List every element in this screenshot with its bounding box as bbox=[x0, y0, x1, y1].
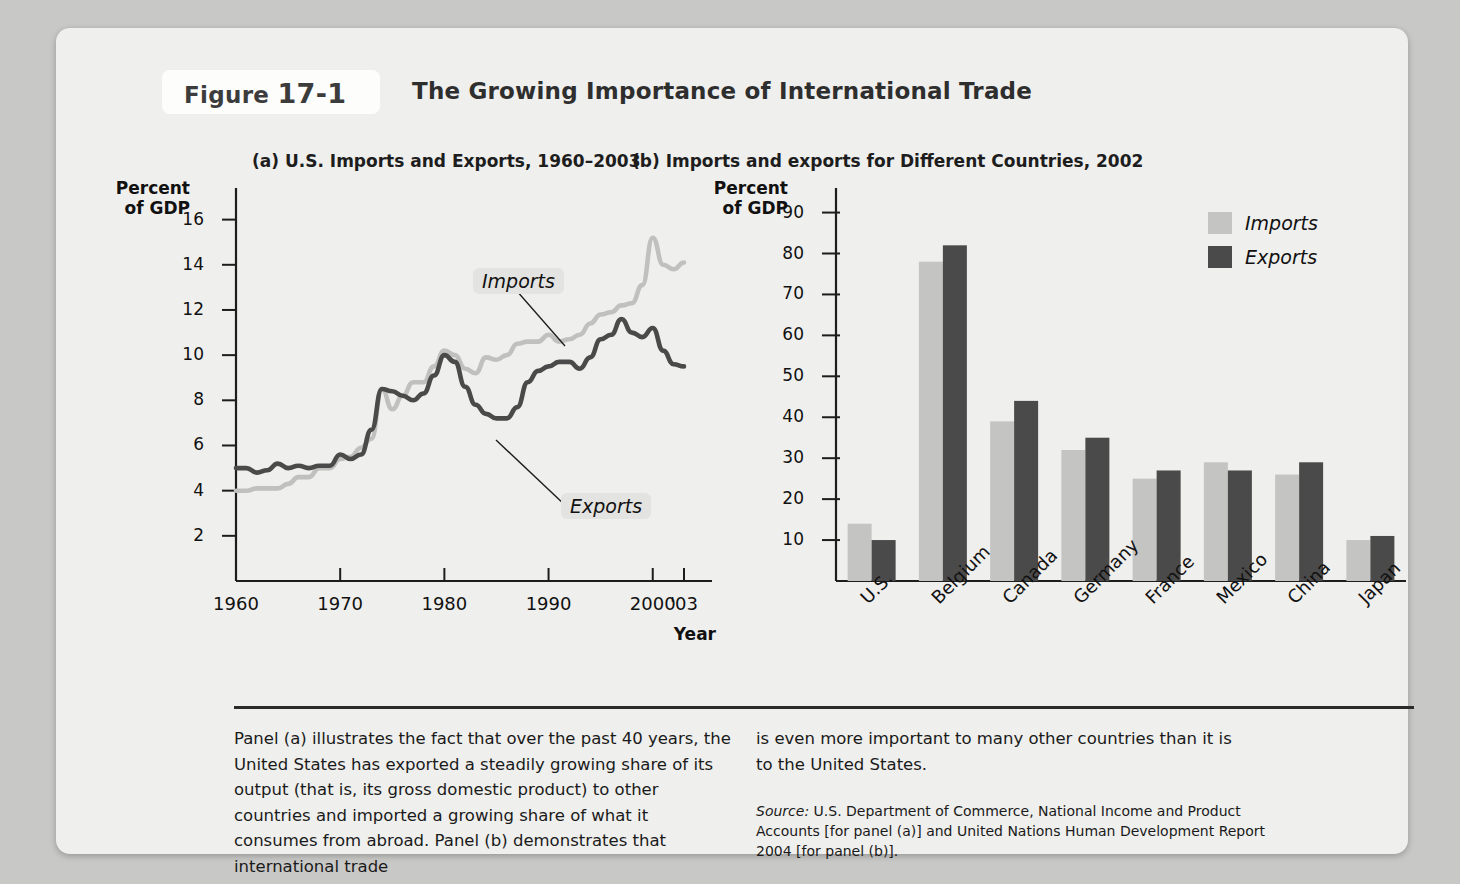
source-text: U.S. Department of Commerce, National In… bbox=[756, 803, 1265, 859]
y-tick-label: 60 bbox=[740, 324, 804, 344]
bar-imports bbox=[1133, 479, 1157, 581]
caption-left-text: Panel (a) illustrates the fact that over… bbox=[234, 726, 734, 879]
figure-tag-number: 17-1 bbox=[278, 78, 347, 109]
y-tick-label: 30 bbox=[740, 447, 804, 467]
y-tick-label: 40 bbox=[740, 406, 804, 426]
exports-line bbox=[236, 319, 684, 473]
panel-a-title: (a) U.S. Imports and Exports, 1960–2003 bbox=[252, 151, 640, 171]
caption-left-column: Panel (a) illustrates the fact that over… bbox=[234, 726, 734, 879]
y-tick-label: 80 bbox=[740, 243, 804, 263]
y-tick-label: 16 bbox=[144, 209, 204, 229]
panel-b-chart bbox=[796, 188, 1416, 588]
bar-exports bbox=[943, 245, 967, 581]
callout-exports: Exports bbox=[561, 493, 651, 519]
y-tick-label: 2 bbox=[144, 525, 204, 545]
imports-line bbox=[236, 238, 684, 491]
x-tick-label: 1970 bbox=[300, 593, 380, 614]
y-tick-label: 12 bbox=[144, 299, 204, 319]
bar-imports bbox=[1346, 540, 1370, 581]
panel-b-svg bbox=[796, 188, 1416, 588]
y-tick-label: 6 bbox=[144, 434, 204, 454]
figure-tag: Figure 17-1 bbox=[184, 78, 346, 109]
y-tick-label: 50 bbox=[740, 365, 804, 385]
y-tick-label: 10 bbox=[740, 529, 804, 549]
callout-imports: Imports bbox=[473, 268, 564, 294]
source-note: Source: U.S. Department of Commerce, Nat… bbox=[756, 801, 1276, 861]
x-tick-label: 1960 bbox=[196, 593, 276, 614]
bar-imports bbox=[1275, 475, 1299, 581]
caption-right-column: is even more important to many other cou… bbox=[756, 726, 1234, 777]
y-tick-label: 10 bbox=[144, 344, 204, 364]
bar-imports bbox=[1061, 450, 1085, 581]
figure-page: Figure 17-1 The Growing Importance of In… bbox=[0, 0, 1460, 884]
caption-divider bbox=[234, 706, 1414, 709]
bar-exports bbox=[1014, 401, 1038, 581]
exports-leader-line bbox=[496, 440, 566, 506]
y-tick-label: 90 bbox=[740, 202, 804, 222]
imports-leader-line bbox=[516, 290, 565, 346]
panel-b-bars bbox=[848, 245, 1395, 581]
x-tick-label: 1980 bbox=[404, 593, 484, 614]
y-tick-label: 20 bbox=[740, 488, 804, 508]
y-tick-label: 4 bbox=[144, 480, 204, 500]
figure-card: Figure 17-1 The Growing Importance of In… bbox=[56, 28, 1408, 854]
y-tick-label: 14 bbox=[144, 254, 204, 274]
x-tick-label: 1990 bbox=[509, 593, 589, 614]
bar-imports bbox=[990, 421, 1014, 581]
panel-a-svg bbox=[196, 188, 726, 588]
panel-a-x-ticks bbox=[236, 568, 684, 581]
figure-tag-label: Figure bbox=[184, 82, 269, 108]
panel-a-chart bbox=[196, 188, 726, 588]
panel-a-x-axis-title: Year bbox=[626, 624, 716, 644]
source-label: Source: bbox=[756, 803, 809, 819]
panel-a-y-ticks bbox=[222, 220, 236, 536]
bar-imports bbox=[1204, 462, 1228, 581]
y-tick-label: 70 bbox=[740, 283, 804, 303]
panel-b-y-ticks bbox=[822, 213, 840, 541]
panel-b-title: (b) Imports and exports for Different Co… bbox=[632, 151, 1143, 171]
caption-right-text: is even more important to many other cou… bbox=[756, 726, 1234, 777]
x-tick-label: '03 bbox=[644, 593, 724, 614]
y-tick-label: 8 bbox=[144, 389, 204, 409]
figure-title: The Growing Importance of International … bbox=[412, 78, 1032, 104]
bar-imports bbox=[919, 262, 943, 581]
bar-imports bbox=[848, 524, 872, 581]
